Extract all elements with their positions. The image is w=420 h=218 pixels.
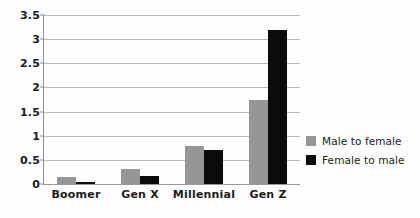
- legend-item[interactable]: Female to male: [306, 154, 405, 166]
- bar: [185, 146, 204, 184]
- legend-swatch-male-to-female: [306, 136, 316, 146]
- x-axis-label: Boomer: [51, 188, 100, 201]
- y-axis-tick-label: 0: [4, 178, 40, 191]
- x-axis-label: Millennial: [173, 188, 235, 201]
- bar: [57, 177, 76, 184]
- y-axis-tick-label: 0.5: [4, 153, 40, 166]
- gridline: [44, 184, 300, 185]
- bar: [140, 176, 159, 184]
- y-axis-ticks: 00.511.522.533.5: [0, 15, 40, 184]
- bar: [76, 182, 95, 184]
- bar: [268, 30, 287, 185]
- bar-group: [121, 15, 159, 184]
- legend-label: Female to male: [322, 154, 405, 166]
- y-axis-tick-label: 3: [4, 33, 40, 46]
- bar: [204, 150, 223, 184]
- legend-swatch-female-to-male: [306, 155, 316, 165]
- x-axis-labels: BoomerGen XMillennialGen Z: [44, 188, 300, 208]
- bar-groups: [44, 15, 300, 184]
- legend-label: Male to female: [322, 135, 402, 147]
- y-axis-tick-label: 1: [4, 129, 40, 142]
- y-axis-tick-label: 2.5: [4, 57, 40, 70]
- bar-chart: 00.511.522.533.5 BoomerGen XMillennialGe…: [0, 0, 420, 218]
- bar: [121, 169, 140, 184]
- bar-group: [185, 15, 223, 184]
- bar-group: [57, 15, 95, 184]
- x-axis-label: Gen X: [121, 188, 159, 201]
- x-axis-label: Gen Z: [249, 188, 286, 201]
- legend-item[interactable]: Male to female: [306, 135, 405, 147]
- chart-legend: Male to femaleFemale to male: [306, 135, 405, 166]
- y-axis-tick-label: 3.5: [4, 9, 40, 22]
- plot-area: [44, 15, 300, 184]
- bar: [249, 100, 268, 184]
- y-axis-tick-label: 1.5: [4, 105, 40, 118]
- y-axis-tick-label: 2: [4, 81, 40, 94]
- bar-group: [249, 15, 287, 184]
